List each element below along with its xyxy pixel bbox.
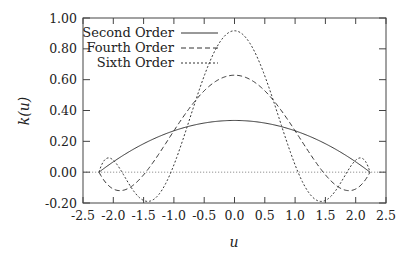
legend-label: Sixth Order: [97, 55, 175, 70]
x-tick-label: -1.5: [132, 208, 156, 223]
legend-label: Second Order: [82, 25, 174, 40]
y-tick-label: 0.20: [49, 134, 77, 149]
y-axis-label: k(u): [16, 97, 32, 125]
legend: Second OrderFourth OrderSixth Order: [82, 25, 218, 70]
series-fourth-order: [99, 75, 370, 190]
y-tick-label: 0.60: [49, 72, 77, 87]
x-tick-label: -0.5: [192, 208, 216, 223]
y-tick-label: 0.40: [49, 103, 77, 118]
y-tick-label: 1.00: [49, 11, 77, 26]
legend-label: Fourth Order: [86, 40, 174, 55]
x-axis-label: u: [229, 234, 238, 250]
x-tick-label: -2.0: [101, 208, 125, 223]
y-tick-label: 0.00: [49, 165, 77, 180]
x-tick-label: 2.5: [376, 208, 396, 223]
y-tick-label: 0.80: [49, 41, 77, 56]
x-tick-label: 0.0: [225, 208, 245, 223]
x-tick-label: 1.0: [285, 208, 305, 223]
x-tick-label: 0.5: [255, 208, 275, 223]
y-tick-label: -0.20: [45, 196, 77, 211]
x-tick-label: 1.5: [315, 208, 335, 223]
x-tick-label: 2.0: [346, 208, 366, 223]
kernel-chart: -2.5-2.0-1.5-1.0-0.50.00.51.01.52.02.5-0…: [0, 0, 416, 257]
x-tick-label: -1.0: [162, 208, 186, 223]
series-second-order: [99, 120, 370, 172]
